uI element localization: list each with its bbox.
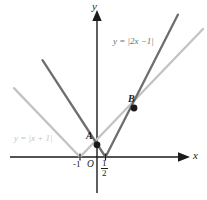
- x-axis-label: x: [193, 150, 198, 161]
- curve-2x-minus-1: [43, 15, 179, 157]
- x-tick-label-neg-1: -1: [73, 160, 81, 169]
- fraction-one-half: 1 2: [101, 159, 108, 178]
- point-A-marker: [94, 141, 101, 148]
- fraction-denominator: 2: [101, 169, 108, 178]
- x-axis-arrow-icon: [178, 152, 190, 161]
- curve-label-2x-minus-1: y = |2x −1|: [113, 37, 154, 46]
- x-tick-label-one-half: 1 2: [101, 159, 108, 179]
- point-A-label: A: [86, 131, 93, 141]
- point-B-marker: [131, 105, 138, 112]
- y-axis-label: y: [92, 1, 97, 12]
- origin-label: O: [87, 160, 94, 170]
- curve-label-x-plus-1: y = |x + 1|: [14, 134, 53, 143]
- point-B-label: B: [128, 94, 135, 104]
- absolute-value-graph-figure: y x O -1 1 2 A B y = |2x −1| y = |x + 1|: [0, 0, 207, 200]
